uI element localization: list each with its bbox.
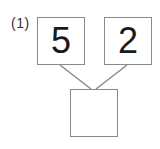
- answer-box[interactable]: [70, 89, 118, 137]
- number-box-right: 2: [104, 17, 152, 65]
- connector-left: [60, 65, 91, 89]
- number-box-left: 5: [37, 17, 85, 65]
- connector-right: [96, 65, 127, 89]
- number-right: 2: [118, 23, 138, 59]
- number-left: 5: [51, 23, 71, 59]
